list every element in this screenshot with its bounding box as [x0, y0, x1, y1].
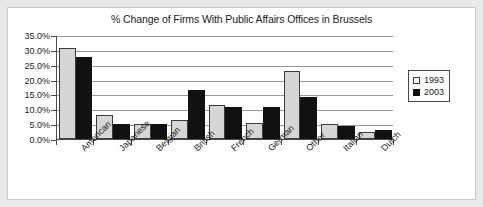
chart-legend: 19932003 [408, 70, 450, 102]
legend-label: 1993 [424, 75, 444, 86]
x-axis-tick-label: Other [304, 146, 311, 153]
y-axis-tick-label: 25.0% [24, 61, 50, 71]
y-axis-tick-mark [51, 66, 56, 67]
x-axis-tick-label: British [192, 146, 199, 153]
x-axis-tick-label: Italian [341, 146, 348, 153]
y-axis-tick-label: 5.0% [29, 120, 50, 130]
x-axis-tick-label: Dutch [379, 146, 386, 153]
bar-group [209, 36, 242, 139]
bar[interactable] [188, 90, 205, 139]
bar-group [246, 36, 279, 139]
y-axis-tick-mark [51, 51, 56, 52]
x-axis-tick-label: German [266, 146, 273, 153]
y-axis-tick-label: 15.0% [24, 90, 50, 100]
chart-canvas: % Change of Firms With Public Affairs Of… [7, 7, 476, 200]
y-axis-tick-mark [51, 125, 56, 126]
chart-figure-frame: % Change of Firms With Public Affairs Of… [0, 0, 483, 207]
bar[interactable] [76, 57, 93, 139]
bar[interactable] [300, 97, 317, 139]
x-axis-tick-label: American [79, 146, 86, 153]
legend-swatch-icon [413, 89, 420, 96]
x-axis-tick-label: Japanese [117, 146, 124, 153]
bar-group [59, 36, 92, 139]
y-axis-tick-label: 35.0% [24, 31, 50, 41]
y-axis-tick-labels: 0.0%5.0%10.0%15.0%20.0%25.0%30.0%35.0% [8, 36, 54, 140]
x-axis-tick-labels: AmericanJapaneseBelgianBritishFrenchGerm… [8, 144, 475, 200]
y-axis-tick-label: 10.0% [24, 105, 50, 115]
chart-title: % Change of Firms With Public Affairs Of… [8, 13, 475, 25]
bar-group [321, 36, 354, 139]
y-axis-tick-mark [51, 140, 56, 141]
legend-item[interactable]: 2003 [413, 86, 444, 98]
y-axis-tick-mark [51, 110, 56, 111]
y-axis-tick-mark [51, 95, 56, 96]
y-axis-tick-label: 20.0% [24, 76, 50, 86]
legend-item[interactable]: 1993 [413, 74, 444, 86]
y-axis-tick-label: 30.0% [24, 46, 50, 56]
y-axis-tick-mark [51, 81, 56, 82]
legend-label: 2003 [424, 87, 444, 98]
bar-group [359, 36, 392, 139]
y-axis-tick-mark [51, 36, 56, 37]
legend-swatch-icon [413, 77, 420, 84]
x-axis-tick-label: Belgian [154, 146, 161, 153]
x-axis-tick-label: French [229, 146, 236, 153]
bar-group [171, 36, 204, 139]
bar[interactable] [59, 48, 76, 139]
